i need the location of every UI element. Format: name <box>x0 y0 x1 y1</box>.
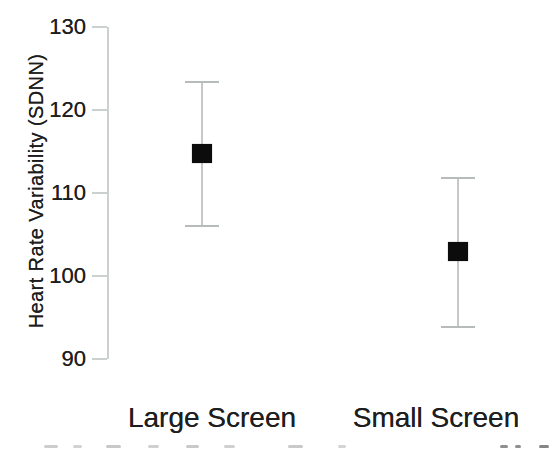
category-label: Small Screen <box>353 402 520 434</box>
data-point-marker <box>192 144 212 163</box>
y-axis-tick <box>92 275 107 277</box>
cut-off-text-fragment <box>539 445 549 448</box>
cut-off-text-fragment <box>515 445 521 448</box>
y-axis-tick <box>92 358 107 360</box>
y-axis-tick-label: 100 <box>26 265 86 287</box>
y-axis-tick-label: 120 <box>26 99 86 121</box>
cut-off-text-fragment <box>288 445 303 448</box>
error-bar-cap-top <box>441 177 475 179</box>
y-axis-tick-label: 90 <box>26 348 86 370</box>
cut-off-text-fragment <box>186 445 199 448</box>
y-axis-line <box>107 27 109 359</box>
cut-off-text-fragment <box>148 445 159 448</box>
y-axis-tick <box>92 192 107 194</box>
category-label: Large Screen <box>128 402 296 434</box>
y-axis-tick <box>92 26 107 28</box>
cut-off-text-fragment <box>106 445 121 448</box>
data-point-marker <box>448 242 468 261</box>
y-axis-tick-label: 110 <box>26 182 86 204</box>
y-axis-tick-label: 130 <box>26 16 86 38</box>
y-axis-tick <box>92 109 107 111</box>
cut-off-text-fragment <box>73 445 82 448</box>
error-bar-cap-top <box>185 81 219 83</box>
error-bar-cap-bottom <box>185 225 219 227</box>
cut-off-text-fragment <box>338 445 346 448</box>
cut-off-text-fragment <box>500 445 508 448</box>
cut-off-text-fragment <box>224 445 235 448</box>
cut-off-text-fragment <box>44 445 58 448</box>
heart-rate-variability-chart: Heart Rate Variability (SDNN) 9010011012… <box>0 0 551 450</box>
error-bar-cap-bottom <box>441 326 475 328</box>
